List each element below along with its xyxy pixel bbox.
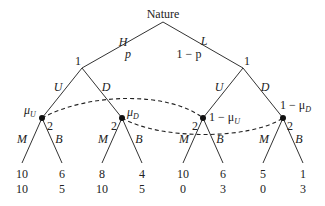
node-p2-4 [280, 115, 286, 121]
node-p2-3 [200, 115, 206, 121]
p2-4-B: B [295, 132, 303, 146]
payoff-6-p2: 3 [220, 182, 226, 196]
p2-label-4: 2 [287, 119, 293, 133]
payoff-2-p2: 5 [59, 182, 65, 196]
nature-action-L: L [200, 34, 208, 48]
p1-left-D: D [101, 80, 111, 94]
payoff-5-p1: 10 [177, 167, 189, 181]
payoff-2-p1: 6 [59, 167, 65, 181]
p1-right-label: 1 [244, 54, 250, 68]
payoff-1-p2: 10 [16, 182, 28, 196]
payoff-7-p2: 0 [260, 182, 266, 196]
payoff-6-p1: 6 [220, 167, 226, 181]
nature-prob-1-minus-p: 1 − p [177, 47, 202, 61]
nature-prob-p: p [124, 47, 131, 61]
payoff-7-p1: 5 [260, 167, 266, 181]
payoff-3-p2: 10 [96, 182, 108, 196]
node-p2-2 [119, 115, 125, 121]
p1-right-D: D [260, 80, 270, 94]
p1-right-U: U [215, 80, 225, 94]
p2-label-3: 2 [192, 119, 198, 133]
payoff-4-p2: 5 [139, 182, 145, 196]
payoff-8-p2: 3 [300, 182, 306, 196]
p2-1-B: B [55, 132, 63, 146]
belief-1-minus-mu-D: 1 − μD [280, 98, 311, 114]
payoff-4-p1: 4 [139, 167, 145, 181]
payoff-5-p2: 0 [180, 182, 186, 196]
p1-left-U: U [54, 80, 64, 94]
belief-mu-D: μD [126, 105, 139, 121]
game-tree: Nature H p L 1 − p 1 1 U D U D μU μD 1 −… [0, 0, 325, 206]
node-p2-1 [39, 115, 45, 121]
payoffs: 10 10 6 5 8 10 4 5 10 0 6 3 5 0 1 3 [16, 167, 306, 196]
p2-3-B: B [216, 132, 224, 146]
p2-label-2: 2 [111, 119, 117, 133]
root-label: Nature [147, 7, 180, 21]
payoff-8-p1: 1 [300, 167, 306, 181]
p2-2-M: M [97, 132, 109, 146]
p2-1-M: M [16, 132, 28, 146]
p2-3-M: M [178, 132, 190, 146]
p2-label-1: 2 [47, 119, 53, 133]
p2-4-M: M [258, 132, 270, 146]
payoff-3-p1: 8 [99, 167, 105, 181]
belief-1-minus-mu-U: 1 − μU [209, 110, 241, 126]
payoff-1-p1: 10 [16, 167, 28, 181]
p1-left-label: 1 [75, 54, 81, 68]
p2-2-B: B [135, 132, 143, 146]
belief-mu-U: μU [23, 103, 37, 119]
